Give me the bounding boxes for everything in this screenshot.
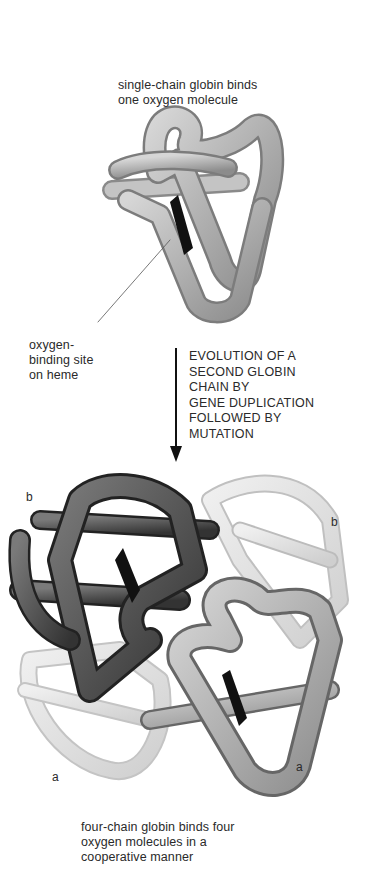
- process-label-line: FOLLOWED BY: [189, 411, 314, 427]
- pointer-line: [98, 240, 170, 322]
- site-label-line: binding site: [29, 353, 93, 368]
- process-label-line: GENE DUPLICATION: [189, 396, 314, 412]
- process-label: EVOLUTION OF A SECOND GLOBIN CHAIN BY GE…: [189, 349, 314, 442]
- bottom-caption-line: four-chain globin binds four: [81, 820, 235, 835]
- globin-diagram: [0, 0, 376, 874]
- bottom-caption: four-chain globin binds four oxygen mole…: [81, 820, 235, 865]
- process-label-line: EVOLUTION OF A: [189, 349, 314, 365]
- evolution-arrow: [170, 348, 182, 462]
- process-label-line: SECOND GLOBIN: [189, 365, 314, 381]
- top-caption-line: one oxygen molecule: [118, 93, 257, 108]
- site-label-line: on heme: [29, 368, 93, 383]
- single-chain-globin: [98, 117, 272, 322]
- chain-label-a-left: a: [52, 770, 59, 784]
- bottom-caption-line: cooperative manner: [81, 850, 235, 865]
- process-label-line: CHAIN BY: [189, 380, 314, 396]
- top-caption: single-chain globin binds one oxygen mol…: [118, 78, 257, 108]
- chain-label-a-right: a: [296, 760, 303, 774]
- four-chain-globin: [19, 484, 340, 784]
- chain-label-b-left: b: [26, 490, 33, 504]
- site-label-line: oxygen-: [29, 338, 93, 353]
- bottom-caption-line: oxygen molecules in a: [81, 835, 235, 850]
- chain-label-b-right: b: [331, 515, 338, 529]
- process-label-line: MUTATION: [189, 427, 314, 443]
- oxygen-binding-site-label: oxygen- binding site on heme: [29, 338, 93, 383]
- top-caption-line: single-chain globin binds: [118, 78, 257, 93]
